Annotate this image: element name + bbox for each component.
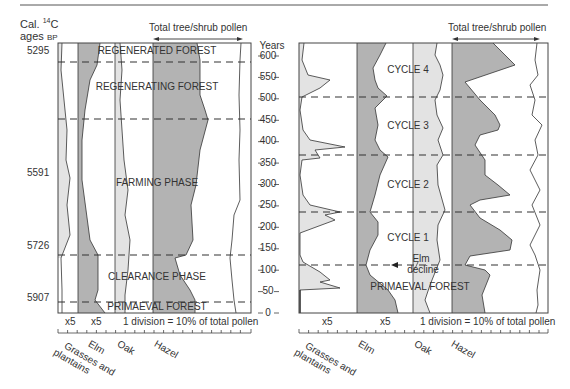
years-tick-label: 400 xyxy=(260,135,277,146)
age-label: 5295 xyxy=(27,45,49,56)
years-tick-label: 150 xyxy=(260,242,277,253)
axis-title-bp: BP xyxy=(47,33,58,42)
elm-decline-label-2: decline xyxy=(407,264,439,275)
right-top-label: Total tree/shrub pollen xyxy=(448,22,546,33)
scale-x5-label: x5 xyxy=(322,316,333,327)
age-label: 5726 xyxy=(27,240,49,251)
scale-note: 1 division = 10% of total pollen xyxy=(420,316,555,327)
years-tick-label: 300 xyxy=(260,178,277,189)
age-label: 5907 xyxy=(27,292,49,303)
cycle-label: PRIMAEVAL FOREST xyxy=(370,281,469,292)
years-tick-label: 450 xyxy=(260,114,277,125)
phase-label: FARMING PHASE xyxy=(116,177,198,188)
years-tick-label: 600 xyxy=(260,50,277,61)
scale-x5-label: x5 xyxy=(65,316,76,327)
cycle-label: CYCLE 2 xyxy=(387,179,429,190)
cycle-label: CYCLE 4 xyxy=(387,64,429,75)
left-top-label: Total tree/shrub pollen xyxy=(149,22,247,33)
scale-note: 1 division = 10% of total pollen xyxy=(123,316,258,327)
years-tick-label: 200 xyxy=(260,221,277,232)
cycle-label: CYCLE 1 xyxy=(387,232,429,243)
years-tick-label: 100 xyxy=(260,264,277,275)
pollen-diagram-graphics xyxy=(0,0,570,389)
axis-title-text: C xyxy=(50,18,58,30)
scale-x5-label: x5 xyxy=(380,316,391,327)
phase-label: REGENERATED FOREST xyxy=(98,45,217,56)
axis-title-text: ages xyxy=(20,30,47,42)
cycle-label: CYCLE 3 xyxy=(387,120,429,131)
years-tick-label: 50 xyxy=(262,285,273,296)
years-tick-label: 350 xyxy=(260,157,277,168)
years-tick-label: 550 xyxy=(260,71,277,82)
left-axis-title-line1: Cal. 14C xyxy=(20,17,58,30)
years-tick-label: 500 xyxy=(260,92,277,103)
age-label: 5591 xyxy=(27,167,49,178)
years-tick-label: 0 xyxy=(265,307,271,318)
phase-label: REGENERATING FOREST xyxy=(96,81,219,92)
left-axis-title-line2: ages BP xyxy=(20,30,58,42)
axis-title-text: Cal. xyxy=(20,18,43,30)
elm-decline-label-1: Elm xyxy=(412,253,429,264)
scale-x5-label: x5 xyxy=(91,316,102,327)
years-tick-label: 250 xyxy=(260,199,277,210)
phase-label: PRIMAEVAL FOREST xyxy=(107,301,206,312)
phase-label: CLEARANCE PHASE xyxy=(108,271,206,282)
